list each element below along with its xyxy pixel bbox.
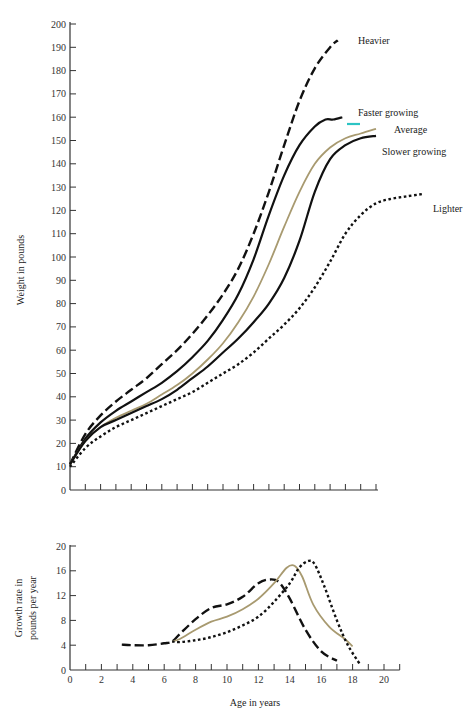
y-tick-label: 80 [56,298,66,309]
y-tick-label: 0 [61,485,66,496]
label-faster-growing: Faster growing [358,107,418,118]
y-tick-label: 60 [56,345,66,356]
x-tick-label: 12 [253,674,263,685]
bottom-chart-series [122,561,361,665]
x-tick-label: 0 [68,674,73,685]
y-tick-label: 180 [51,65,66,76]
x-tick-label: 16 [316,674,326,685]
label-slower-growing: Slower growing [382,146,446,157]
y-tick-label: 190 [51,42,66,53]
y-tick-label: 70 [56,321,66,332]
x-tick-label: 8 [193,674,198,685]
label-average: Average [394,124,428,135]
y-tick-label: 110 [51,228,66,239]
y-tick-label: 10 [56,461,66,472]
y-tick-label: 140 [51,158,66,169]
x-tick-label: 20 [379,674,389,685]
y-tick-label: 200 [51,19,66,30]
series-average [70,129,376,465]
y-tick-label: 150 [51,135,66,146]
top-chart-series [70,40,422,466]
y-tick-label: 50 [56,368,66,379]
x-tick-label: 4 [130,674,135,685]
y-tick-label: 12 [56,590,66,601]
y-tick-label: 0 [61,665,66,676]
label-lighter: Lighter [433,203,463,214]
y-tick-label: 40 [56,391,66,402]
series-heavier [122,579,337,660]
y-tick-label: 170 [51,88,66,99]
series-faster-growing [70,117,342,464]
x-tick-label: 6 [162,674,167,685]
growth-chart: 0102030405060708090100110120130140150160… [0,0,465,722]
series-lighter [172,561,360,665]
x-tick-label: 2 [99,674,104,685]
y-tick-label: 8 [61,615,66,626]
x-tick-label: 10 [222,674,232,685]
y-tick-label: 30 [56,415,66,426]
series-average [172,565,353,646]
y-tick-label: 100 [51,252,66,263]
bottom-chart-axes: 04812162002468101214161820 [56,541,400,686]
x-tick-label: 18 [348,674,358,685]
y-tick-label: 90 [56,275,66,286]
x-axis-title: Age in years [230,697,281,708]
bottom-y-axis-title-line1: Growth rate in [13,579,24,637]
bottom-y-axis-title-line2: pounds per year [27,575,38,640]
top-y-axis-title: Weight in pounds [15,235,26,305]
series-slower-growing [70,136,376,465]
label-heavier: Heavier [358,35,390,46]
y-tick-label: 4 [61,640,66,651]
y-tick-label: 20 [56,541,66,552]
y-tick-label: 130 [51,182,66,193]
series-heavier [70,40,338,464]
y-tick-label: 20 [56,438,66,449]
y-tick-label: 16 [56,565,66,576]
y-tick-label: 120 [51,205,66,216]
y-tick-label: 160 [51,112,66,123]
x-tick-label: 14 [285,674,295,685]
